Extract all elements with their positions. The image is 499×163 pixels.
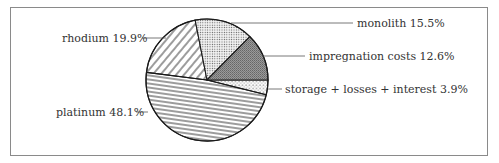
label-impregnation: impregnation costs 12.6% [309, 50, 455, 63]
label-storage: storage + losses + interest 3.9% [285, 83, 468, 96]
label-rhodium: rhodium 19.9% [62, 32, 147, 45]
pie [146, 19, 268, 141]
pie-chart: rhodium 19.9% platinum 48.1% monolith 15… [0, 0, 499, 163]
label-monolith: monolith 15.5% [357, 17, 445, 30]
label-platinum: platinum 48.1% [56, 106, 144, 119]
